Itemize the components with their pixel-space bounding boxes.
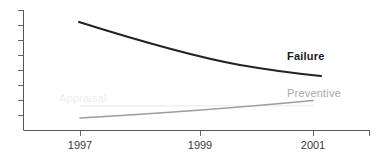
- y-axis-ticks: [18, 11, 24, 116]
- x-axis-tick-label-1997: 1997: [68, 139, 92, 151]
- x-axis-tick-label-2001: 2001: [301, 139, 325, 151]
- series-label-preventive: Preventive: [287, 87, 341, 99]
- series-label-failure: Failure: [287, 50, 324, 62]
- series-label-appraisal: Appraisal: [59, 92, 107, 104]
- series-line-failure: [79, 22, 321, 76]
- x-axis-ticks: [81, 131, 370, 137]
- x-axis-tick-label-1999: 1999: [188, 139, 212, 151]
- cost-of-quality-line-chart: Failure Preventive Appraisal 1997 1999 2…: [0, 0, 384, 159]
- chart-plot-area: [0, 0, 384, 159]
- series-line-preventive: [80, 101, 313, 119]
- series-line-appraisal: [80, 106, 313, 107]
